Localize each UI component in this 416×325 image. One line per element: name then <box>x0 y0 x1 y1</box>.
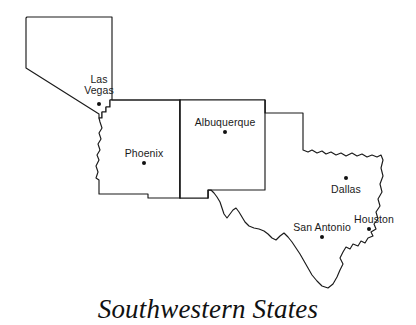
city-label-dallas-line-1: Dallas <box>331 184 361 195</box>
city-dot-las-vegas <box>97 102 101 106</box>
city-label-houston: Houston <box>354 214 394 225</box>
city-label-san-antonio: San Antonio <box>293 222 351 233</box>
city-label-las-vegas: Las Vegas <box>84 74 114 96</box>
city-label-albuquerque: Albuquerque <box>195 117 256 128</box>
city-dot-phoenix <box>142 161 146 165</box>
map-title: Southwestern States <box>0 294 416 324</box>
city-label-houston-line-1: Houston <box>354 214 394 225</box>
map-graphic <box>0 0 416 325</box>
city-dot-houston <box>367 227 371 231</box>
city-dot-albuquerque <box>223 130 227 134</box>
city-label-las-vegas-line-2: Vegas <box>84 85 114 96</box>
city-label-san-antonio-line-1: San Antonio <box>293 222 351 233</box>
city-label-phoenix-line-1: Phoenix <box>125 148 164 159</box>
city-label-albuquerque-line-1: Albuquerque <box>195 117 256 128</box>
city-label-dallas: Dallas <box>331 184 361 195</box>
city-dot-dallas <box>344 176 348 180</box>
city-label-phoenix: Phoenix <box>125 148 164 159</box>
city-dot-san-antonio <box>320 235 324 239</box>
southwestern-states-map-figure: Las Vegas Phoenix Albuquerque Dallas San… <box>0 0 416 325</box>
